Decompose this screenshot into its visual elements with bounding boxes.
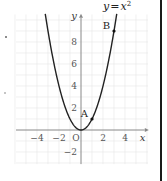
- right-border-line: [160, 0, 162, 181]
- point-b: [112, 29, 115, 32]
- y-axis-label: y: [70, 10, 77, 21]
- y-tick-label: 8: [71, 37, 77, 47]
- y-tick-label: 4: [71, 81, 77, 91]
- x-tick-label: 2: [100, 133, 106, 143]
- point-label-a: A: [80, 108, 89, 119]
- y-axis-arrow: [79, 14, 83, 18]
- y-tick-label: 2: [71, 103, 77, 113]
- origin-label: O: [72, 133, 79, 143]
- x-tick-label: −2: [52, 133, 65, 143]
- y-tick-label: 6: [71, 59, 77, 69]
- margin-mark: [4, 92, 6, 94]
- x-axis-label: x: [140, 132, 146, 143]
- margin-mark: [5, 36, 7, 38]
- chart-title: y=x2: [102, 0, 131, 13]
- point-a: [90, 117, 93, 120]
- parabola-chart: −4−224−22468Oxy AB y=x2: [0, 0, 160, 181]
- y-tick-label: −2: [64, 147, 77, 157]
- x-tick-label: −4: [30, 133, 44, 143]
- point-label-b: B: [103, 20, 110, 31]
- x-tick-label: 4: [122, 133, 128, 143]
